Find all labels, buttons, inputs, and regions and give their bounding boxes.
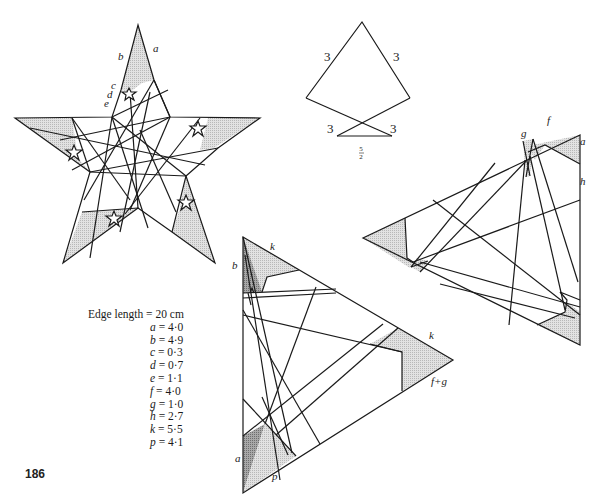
kite-side-label-lr: 3 [390,121,397,136]
legend-var: e [150,372,155,384]
legend-value: 4·9 [168,334,183,346]
bt-label-b: b [232,259,238,271]
bottom-triangle-diagram [243,237,453,493]
legend-row-g: g = 1·0 [88,398,184,411]
legend-row-f: f = 4·0 [88,385,184,398]
bt-label-k-top: k [270,240,276,252]
kite-base-label-denominator: 2 [359,153,363,161]
legend-value: 2·7 [168,410,183,422]
legend-var: f [150,385,153,397]
star-label-a: a [153,42,159,54]
kite-base-label-numerator: 5 [359,145,363,153]
legend-value: 5·5 [167,423,182,435]
legend-row-e: e = 1·1 [88,372,184,385]
kite-side-label-ul: 3 [324,49,331,64]
star-tip-right-shade [200,118,260,150]
legend-var: k [150,423,155,435]
legend-row-c: c = 0·3 [88,346,184,359]
kite-diagram [306,22,410,136]
rt-label-a: a [580,135,586,147]
right-triangle-diagram [363,135,580,345]
legend-row-k: k = 5·5 [88,423,184,436]
legend-var: a [150,321,156,333]
legend-value: 0·3 [167,346,182,358]
star-label-b: b [118,50,124,62]
legend-var: g [150,398,156,410]
star-mark-right [190,121,206,136]
bt-label-a: a [235,452,241,464]
bt-label-p: p [271,470,278,482]
rt-label-h: h [580,175,586,187]
legend-value: 4·0 [168,321,183,333]
legend-heading: Edge length = 20 cm [88,308,184,321]
legend-var: p [150,436,156,448]
star-label-e: e [104,97,109,109]
legend-row-a: a = 4·0 [88,321,184,334]
legend-var: b [150,334,156,346]
kite-side-label-ur: 3 [393,49,400,64]
legend-row-b: b = 4·9 [88,334,184,347]
legend-value: 0·7 [168,359,183,371]
legend-row-p: p = 4·1 [88,436,184,449]
star-tip-bottomright-shade [172,176,215,263]
bt-label-f-plus-g: f+g [431,375,447,387]
legend-row-h: h = 2·7 [88,410,184,423]
rt-label-f: f [547,114,552,126]
legend-value: 4·0 [165,385,180,397]
star-diagram [15,25,260,263]
legend-row-d: d = 0·7 [88,359,184,372]
rt-label-g: g [521,127,527,139]
dimensions-legend: Edge length = 20 cm a = 4·0 b = 4·9 c = … [88,308,184,449]
bt-label-k-right: k [429,329,435,341]
legend-var: h [150,410,156,422]
legend-value: 4·1 [168,436,183,448]
legend-var: d [150,359,156,371]
star-tip-top-shade [121,25,154,92]
kite-side-label-ll: 3 [327,121,334,136]
legend-value: 1·1 [167,372,182,384]
legend-var: c [150,346,155,358]
rt-bottom-shade [537,302,580,345]
page-number: 186 [25,467,45,481]
legend-value: 1·0 [168,398,183,410]
kite-labels: 3 3 3 3 5 2 [324,49,400,161]
